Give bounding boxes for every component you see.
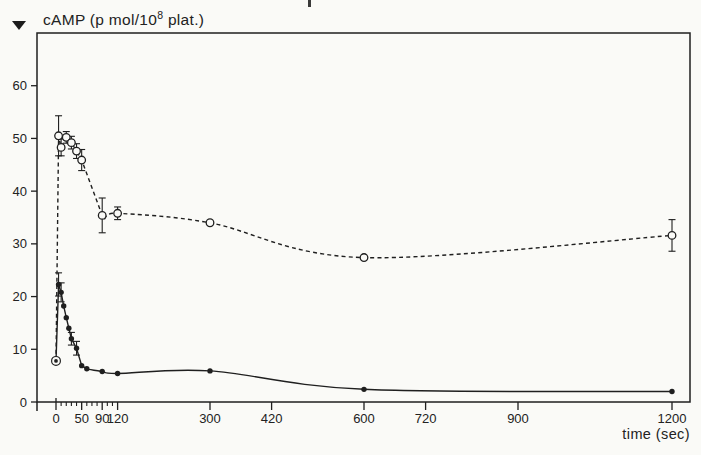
x-tick-label: 420 (261, 411, 283, 426)
x-tick-label: 720 (415, 411, 437, 426)
y-tick-label: 40 (13, 184, 27, 199)
chart-title-suffix: plat.) (163, 11, 204, 28)
x-axis-title: time (sec) (622, 426, 690, 442)
origin-circled-dot-marker-inner (54, 359, 58, 363)
filled-circle-marker (669, 389, 674, 394)
chart-title-prefix: cAMP (p mol/10 (43, 11, 157, 28)
x-tick-label: 120 (107, 411, 129, 426)
open-circle-marker (360, 254, 368, 262)
y-tick-label: 50 (13, 131, 27, 146)
filled-circle-marker (207, 368, 212, 373)
plot-frame (37, 33, 690, 402)
filled-circle-marker (61, 303, 66, 308)
y-tick-label: 20 (13, 289, 27, 304)
open-circle-marker (98, 212, 106, 220)
y-tick-label: 0 (20, 395, 27, 410)
cropped-text-artifact (308, 0, 311, 7)
x-tick-label: 900 (507, 411, 529, 426)
chart-header: cAMP (p mol/108 plat.) (12, 11, 204, 30)
filled-circle-marker (58, 290, 63, 295)
chart-canvas: 0102030405060050901203004206007209001200 (0, 0, 701, 455)
filled-circle-marker (361, 387, 366, 392)
open-circle-marker (57, 144, 65, 152)
x-tick-label: 600 (353, 411, 375, 426)
x-tick-label: 300 (199, 411, 221, 426)
filled-circle-marker (69, 336, 74, 341)
open-circle-dashed-series-line (56, 136, 672, 361)
y-tick-label: 30 (13, 236, 27, 251)
filled-circle-marker (84, 366, 89, 371)
x-tick-label: 50 (74, 411, 88, 426)
x-tick-label: 1200 (658, 411, 687, 426)
filled-circle-marker (66, 326, 71, 331)
y-tick-label: 60 (13, 78, 27, 93)
filled-circle-marker (74, 346, 79, 351)
open-circle-marker (68, 139, 76, 147)
x-tick-label: 0 (52, 411, 59, 426)
filled-circle-marker (79, 363, 84, 368)
figure-root: cAMP (p mol/108 plat.) 01020304050600509… (0, 0, 701, 455)
open-circle-marker (73, 147, 81, 155)
filled-circle-solid-series-line (56, 284, 672, 391)
filled-circle-marker (100, 369, 105, 374)
chart-title: cAMP (p mol/108 plat.) (43, 11, 204, 29)
filled-circle-marker (56, 282, 61, 287)
filled-circle-marker (64, 315, 69, 320)
open-circle-marker (78, 156, 86, 164)
y-tick-label: 10 (13, 342, 27, 357)
open-circle-marker (668, 232, 676, 240)
filled-circle-marker (115, 371, 120, 376)
open-circle-marker (206, 219, 214, 227)
open-circle-marker (55, 132, 63, 140)
open-circle-marker (114, 209, 122, 217)
filled-triangle-icon (12, 21, 26, 30)
